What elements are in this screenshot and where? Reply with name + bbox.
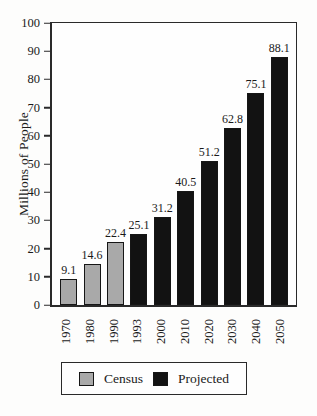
bar-slot: 9.1: [57, 23, 80, 305]
x-axis-labels: 1970198019901993200020102020203020402050: [50, 310, 297, 352]
y-axis-tick-label: 100: [6, 16, 40, 30]
bar-slot: 51.2: [197, 23, 220, 305]
y-axis-tick: [44, 304, 50, 306]
y-axis-tick: [44, 248, 50, 250]
bar-projected: [177, 191, 194, 305]
y-axis-tick-label: 60: [6, 129, 40, 143]
bars: 9.114.622.425.131.240.551.262.875.188.1: [52, 23, 296, 305]
bar-slot: 14.6: [80, 23, 103, 305]
x-slot: 2030: [221, 310, 245, 352]
bar-slot: 31.2: [151, 23, 174, 305]
bar-value-label: 25.1: [128, 218, 149, 232]
legend: Census Projected: [61, 362, 247, 395]
y-axis-tick: [44, 163, 50, 165]
population-bar-chart: Millions of People 9.114.622.425.131.240…: [0, 0, 317, 416]
bar-value-label: 62.8: [222, 112, 243, 126]
bar-slot: 75.1: [244, 23, 267, 305]
y-axis-tick-label: 30: [6, 213, 40, 227]
bar-projected: [224, 128, 241, 305]
bar-slot: 22.4: [104, 23, 127, 305]
bar-value-label: 14.6: [82, 248, 103, 262]
x-slot: 2020: [197, 310, 221, 352]
bar-value-label: 22.4: [105, 226, 126, 240]
y-axis-tick-label: 10: [6, 270, 40, 284]
y-axis-tick: [44, 50, 50, 52]
y-axis-tick-label: 70: [6, 101, 40, 115]
legend-item-census: Census: [79, 371, 143, 387]
bar-value-label: 31.2: [152, 201, 173, 215]
x-slot: 1993: [126, 310, 150, 352]
legend-label-census: Census: [104, 371, 143, 387]
bar-value-label: 88.1: [269, 41, 290, 55]
census-swatch-icon: [79, 372, 94, 386]
y-axis-tick-label: 80: [6, 72, 40, 86]
bar-projected: [247, 93, 264, 305]
bar-value-label: 51.2: [199, 145, 220, 159]
bar-census: [107, 242, 124, 305]
bar-projected: [130, 234, 147, 305]
y-axis-tick: [44, 79, 50, 81]
y-axis-tick: [44, 220, 50, 222]
y-axis-tick-label: 40: [6, 185, 40, 199]
projected-swatch-icon: [153, 372, 168, 386]
x-axis-label: 2040: [249, 319, 264, 344]
bar-projected: [154, 217, 171, 305]
x-slot: 2000: [150, 310, 174, 352]
y-axis-tick: [44, 22, 50, 24]
bar-value-label: 9.1: [61, 263, 76, 277]
y-axis-tick: [44, 107, 50, 109]
y-axis-tick-label: 0: [6, 298, 40, 312]
x-axis-label: 2020: [202, 319, 217, 344]
x-axis-label: 1993: [130, 319, 145, 344]
y-axis-tick-label: 90: [6, 44, 40, 58]
x-slot: 1990: [102, 310, 126, 352]
bar-census: [84, 264, 101, 305]
x-axis-label: 1980: [83, 319, 98, 344]
x-axis-label: 2000: [154, 319, 169, 344]
x-axis-label: 2010: [178, 319, 193, 344]
x-slot: 2040: [245, 310, 269, 352]
y-axis-tick: [44, 276, 50, 278]
x-slot: 2050: [268, 310, 292, 352]
x-slot: 1970: [55, 310, 79, 352]
y-axis-tick: [44, 135, 50, 137]
bar-value-label: 40.5: [175, 175, 196, 189]
bar-projected: [201, 161, 218, 305]
x-slot: 1980: [79, 310, 103, 352]
y-axis-tick-label: 50: [6, 157, 40, 171]
x-slot: 2010: [174, 310, 198, 352]
x-axis-label: 2050: [273, 319, 288, 344]
legend-label-projected: Projected: [178, 371, 229, 387]
bar-projected: [271, 57, 288, 305]
x-axis-label: 2030: [225, 319, 240, 344]
bar-slot: 62.8: [221, 23, 244, 305]
bar-value-label: 75.1: [245, 77, 266, 91]
bar-census: [60, 279, 77, 305]
bar-slot: 25.1: [127, 23, 150, 305]
y-axis-tick: [44, 191, 50, 193]
x-axis-label: 1990: [107, 319, 122, 344]
legend-item-projected: Projected: [153, 371, 229, 387]
x-axis-label: 1970: [59, 319, 74, 344]
bar-slot: 40.5: [174, 23, 197, 305]
y-axis-tick-label: 20: [6, 242, 40, 256]
bar-slot: 88.1: [268, 23, 291, 305]
plot-area: 9.114.622.425.131.240.551.262.875.188.1 …: [50, 22, 297, 307]
